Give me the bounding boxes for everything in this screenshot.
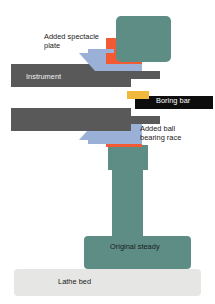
label-instrument: Instrument — [26, 72, 61, 81]
lower-spectacle-plate-lip — [88, 140, 142, 144]
boring-bar-tool-tip-shape — [127, 91, 149, 99]
diagram-canvas: Added spectacle plate Instrument Boring … — [0, 0, 215, 304]
label-added-ball-bearing-race: Added ball bearing race — [140, 124, 181, 143]
lathe-steady-diagram — [0, 0, 215, 304]
label-boring-bar: Boring bar — [156, 96, 190, 105]
label-lathe-bed: Lathe bed — [58, 277, 91, 286]
steady-neck-shape — [108, 145, 148, 170]
label-added-spectacle-plate: Added spectacle plate — [44, 32, 99, 51]
label-original-steady: Original steady — [110, 242, 160, 251]
lathe-bed-shape — [14, 269, 201, 296]
upper-teal-body-shape — [116, 16, 171, 62]
steady-column-shape — [112, 168, 143, 238]
steady-base-shape — [84, 236, 191, 269]
